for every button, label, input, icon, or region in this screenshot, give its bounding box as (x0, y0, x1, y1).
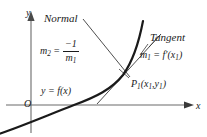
y-axis-label: y (26, 8, 30, 18)
point-label-close: ) (163, 78, 166, 89)
normal-leader-line (83, 19, 130, 77)
normal-slope-equals: = (53, 45, 60, 56)
point-label: P1(x1,y1) (131, 79, 166, 91)
tangent-normal-figure: y x O Normal Tangent y = f(x) m1 = f′(x1… (0, 0, 207, 137)
origin-label: O (24, 99, 31, 109)
normal-slope-denominator-subscript: 1 (73, 56, 77, 64)
normal-slope-label: m2 = −1 m1 (40, 39, 79, 65)
normal-slope-lhs-group: m2 = (40, 46, 60, 58)
normal-slope-denominator: m (66, 52, 73, 63)
tangent-slope-label: m1 = f′(x1) (140, 50, 182, 62)
normal-slope-m-subscript: 2 (47, 50, 51, 58)
normal-slope-fraction: −1 m1 (63, 39, 79, 65)
tangent-line-label: Tangent (150, 32, 185, 43)
figure-canvas (0, 0, 207, 137)
normal-slope-numerator: −1 (63, 39, 79, 50)
normal-slope-denominator-group: m1 (64, 53, 79, 65)
curve-equation-label: y = f(x) (41, 86, 71, 96)
x-axis-label: x (196, 101, 200, 111)
tangent-slope-expression: = f′(x (151, 49, 175, 60)
normal-line-label: Normal (44, 13, 78, 24)
x-axis-arrowhead-icon (184, 101, 194, 108)
tangent-slope-close-paren: ) (179, 49, 182, 60)
point-label-comma-y: ,y (152, 78, 159, 89)
